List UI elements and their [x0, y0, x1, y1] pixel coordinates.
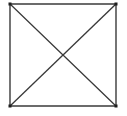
diagonals-group — [10, 4, 116, 106]
corner-accent-top-left — [9, 3, 12, 6]
figure-canvas — [0, 0, 127, 116]
square-diagonals-figure — [0, 0, 127, 116]
corner-accent-bottom-left — [9, 105, 12, 108]
corner-accent-top-right — [115, 3, 118, 6]
corner-accent-bottom-right — [115, 105, 118, 108]
